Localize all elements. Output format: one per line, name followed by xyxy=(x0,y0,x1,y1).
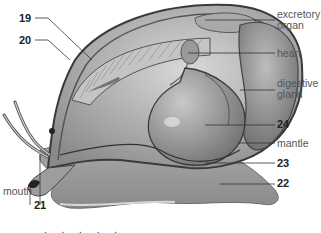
label-heart: heart xyxy=(277,48,301,59)
label-22: 22 xyxy=(277,178,289,189)
label-digestive-line2: gland xyxy=(277,89,318,100)
label-digestive-gland: digestive gland xyxy=(277,78,318,100)
label-mantle: mantle xyxy=(277,138,309,149)
label-excretory-line2: organ xyxy=(277,20,320,31)
label-20: 20 xyxy=(19,35,31,46)
label-23: 23 xyxy=(277,158,289,169)
label-excretory-organ: excretory organ xyxy=(277,9,320,31)
label-21: 21 xyxy=(34,200,46,211)
snail-illustration xyxy=(0,0,321,233)
caption-fragment: . . . . . xyxy=(44,224,123,233)
label-mouth: mouth xyxy=(3,186,32,197)
label-24: 24 xyxy=(277,119,289,130)
label-19: 19 xyxy=(19,13,31,24)
heart xyxy=(181,40,199,64)
eye xyxy=(49,128,55,134)
